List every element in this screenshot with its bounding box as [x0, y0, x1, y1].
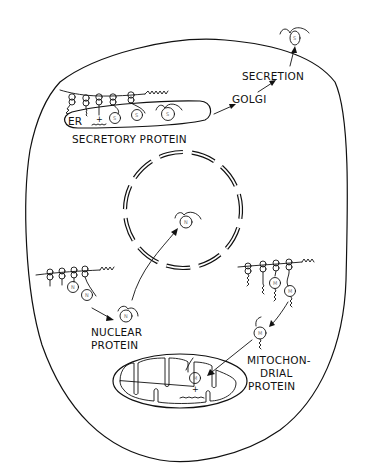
protein-targeting-diagram: ER + S S S SECRETORY PROT	[0, 0, 367, 472]
ribosome	[69, 94, 75, 105]
svg-text:M: M	[288, 288, 292, 294]
arrow-into-mitochondrion	[212, 340, 252, 372]
nuclear-protein-nascent: N	[82, 290, 93, 301]
mito-charge-symbol: +	[192, 385, 199, 394]
mito-protein-nascent: M	[270, 278, 281, 302]
svg-text:M: M	[273, 280, 277, 286]
mito-protein-nascent: M	[285, 286, 296, 308]
secreted-protein: S	[280, 28, 309, 45]
cytosolic-polysome-nuclear: N N	[36, 266, 114, 301]
secretory-protein: S	[110, 113, 121, 124]
mito-label-line1: MITOCHON-	[247, 354, 311, 366]
svg-text:N: N	[184, 219, 188, 225]
ribosome	[83, 95, 89, 106]
ribosome	[128, 92, 134, 103]
svg-text:S: S	[135, 112, 138, 118]
svg-text:N: N	[71, 284, 75, 290]
svg-text:S: S	[113, 115, 116, 121]
arrow-er-to-golgi	[214, 106, 232, 114]
arrow-to-mito-protein	[272, 302, 288, 324]
mito-label-line3: PROTEIN	[248, 380, 295, 392]
secretory-protein-folded: S	[156, 104, 182, 120]
svg-text:S: S	[166, 111, 169, 117]
secretory-protein-label: SECRETORY PROTEIN	[72, 133, 187, 145]
secretory-protein: S	[132, 110, 143, 121]
mito-protein-free: M	[254, 317, 266, 349]
nuclear-label-line2: PROTEIN	[91, 339, 138, 351]
nuclear-protein-nascent: N	[68, 282, 79, 293]
cytosolic-polysome-mito: M M	[238, 259, 314, 307]
mitochondrion: M +	[113, 354, 247, 408]
er-label: ER	[68, 115, 82, 127]
svg-text:M: M	[258, 330, 262, 336]
nuclear-protein-imported: N	[175, 212, 201, 228]
secretion-label: SECRETION	[242, 70, 304, 82]
nuclear-label-line1: NUCLEAR	[91, 326, 142, 338]
svg-text:M: M	[193, 375, 197, 381]
charge-symbol: +	[96, 115, 103, 124]
svg-text:N: N	[124, 313, 128, 319]
svg-text:N: N	[85, 292, 89, 298]
mito-protein-imported: M	[190, 373, 201, 384]
svg-text:S: S	[293, 35, 296, 41]
mito-label-line2: DRIAL	[260, 367, 293, 379]
arrow-golgi-to-secretion	[258, 83, 272, 92]
nuclear-envelope	[112, 139, 254, 281]
golgi-label: GOLGI	[232, 93, 266, 105]
nuclear-protein-free: N	[118, 306, 138, 322]
